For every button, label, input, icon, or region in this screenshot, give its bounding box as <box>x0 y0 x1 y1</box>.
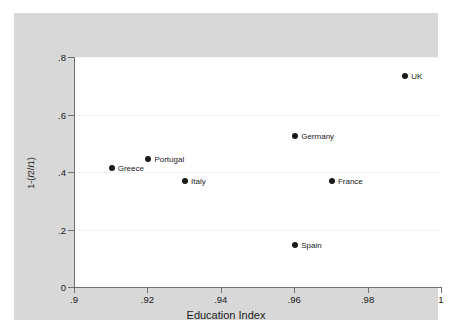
x-axis-tick-label: .94 <box>214 294 227 305</box>
data-point-marker <box>145 156 151 162</box>
x-axis-tick-label: .9 <box>70 294 78 305</box>
data-point-label: Spain <box>301 242 321 250</box>
y-axis-tick <box>68 230 74 231</box>
data-point-marker <box>109 165 115 171</box>
y-axis-tick <box>68 172 74 173</box>
y-axis-tick-label: .2 <box>14 224 66 235</box>
x-axis-tick <box>221 288 222 293</box>
data-point-marker <box>402 73 408 79</box>
x-axis-tick <box>441 288 442 293</box>
y-axis-tick-label: .8 <box>14 52 66 63</box>
graph-canvas: GreecePortugalItalySpainGermanyFranceUK … <box>14 13 438 320</box>
x-axis-tick-label: .98 <box>361 294 374 305</box>
x-axis-title: Education Index <box>14 309 438 321</box>
data-point-label: Portugal <box>154 156 184 164</box>
y-axis-tick-label: .6 <box>14 109 66 120</box>
data-point-marker <box>182 178 188 184</box>
data-point-marker <box>329 178 335 184</box>
data-point-label: Greece <box>118 165 144 173</box>
x-axis-tick <box>74 288 75 293</box>
data-point-marker <box>292 133 298 139</box>
data-point-label: France <box>338 178 363 186</box>
gridline <box>75 230 442 231</box>
x-axis-tick <box>147 288 148 293</box>
x-axis-tick <box>368 288 369 293</box>
y-axis-title: 1-(I2/I1) <box>26 157 36 189</box>
x-axis-tick-label: 1 <box>438 294 443 305</box>
x-axis-tick-label: .92 <box>141 294 154 305</box>
data-point-label: Italy <box>191 178 206 186</box>
data-point-label: UK <box>411 73 422 81</box>
scatter-plot-figure: GreecePortugalItalySpainGermanyFranceUK … <box>0 0 454 333</box>
gridline <box>75 57 442 58</box>
gridline <box>75 115 442 116</box>
data-point-label: Germany <box>301 133 334 141</box>
x-axis-tick-label: .96 <box>288 294 301 305</box>
y-axis-tick-label: 0 <box>14 282 66 293</box>
x-axis-tick <box>294 288 295 293</box>
y-axis-tick-label: .4 <box>14 167 66 178</box>
y-axis-tick <box>68 115 74 116</box>
y-axis-tick <box>68 57 74 58</box>
data-point-marker <box>292 242 298 248</box>
plot-region: GreecePortugalItalySpainGermanyFranceUK <box>74 57 442 288</box>
